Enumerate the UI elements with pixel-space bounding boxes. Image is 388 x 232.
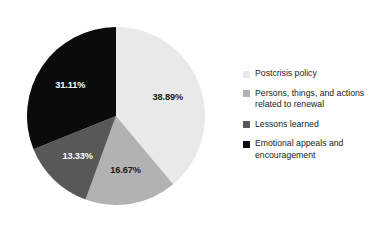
legend-color-swatch-icon <box>243 90 250 97</box>
legend-item-label: Emotional appeals and encouragement <box>255 138 343 160</box>
legend-item[interactable]: Postcrisis policy <box>243 68 388 79</box>
chart-legend: Postcrisis policyPersons, things, and ac… <box>243 68 388 169</box>
legend-color-swatch-icon <box>243 141 250 148</box>
pie-chart-figure: 38.89%16.67%13.33%31.11% Postcrisis poli… <box>0 0 388 232</box>
legend-color-swatch-icon <box>243 121 250 128</box>
legend-item-label: Lessons learned <box>255 119 319 130</box>
legend-color-swatch-icon <box>243 71 250 78</box>
pie-slice-value-label: 16.67% <box>110 165 141 175</box>
pie-slice-group <box>27 27 205 205</box>
pie-slice-value-label: 38.89% <box>153 92 184 102</box>
legend-item[interactable]: Persons, things, and actions related to … <box>243 88 388 110</box>
pie-chart-svg: 38.89%16.67%13.33%31.11% <box>0 0 232 232</box>
pie-chart-area: 38.89%16.67%13.33%31.11% <box>0 0 232 232</box>
legend-item[interactable]: Emotional appeals and encouragement <box>243 138 388 160</box>
legend-item-label: Persons, things, and actions related to … <box>255 88 364 110</box>
legend-item[interactable]: Lessons learned <box>243 119 388 130</box>
pie-slice-value-label: 31.11% <box>55 80 85 90</box>
pie-slice-value-label: 13.33% <box>62 151 93 161</box>
legend-item-label: Postcrisis policy <box>255 68 317 79</box>
